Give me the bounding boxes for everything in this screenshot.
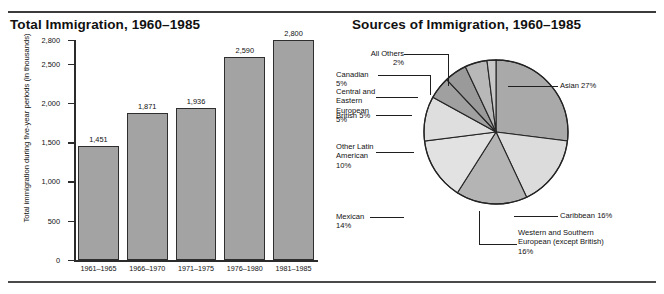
pie-chart-panel: All Others 2% Canadian 5% Central and Ea… bbox=[336, 34, 664, 282]
pie-graphic bbox=[422, 58, 570, 206]
y-tick-label: 2,500 bbox=[42, 59, 61, 68]
bar-value-label: 2,800 bbox=[284, 29, 303, 38]
leader-wseuro-v bbox=[479, 211, 480, 244]
leader-canadian-h bbox=[378, 75, 430, 76]
y-tick-label: 2,800 bbox=[42, 36, 61, 45]
pie-label-wseuro-line1: Western and Southern bbox=[518, 228, 628, 237]
pie-label-caribbean: Caribbean 16% bbox=[560, 211, 624, 220]
leader-wseuro-h bbox=[479, 244, 517, 245]
leader-mexican-h bbox=[370, 217, 404, 218]
leader-all-others-v bbox=[448, 54, 449, 86]
x-axis-line bbox=[74, 260, 318, 262]
pie-chart-title: Sources of Immigration, 1960–1985 bbox=[352, 17, 581, 32]
y-tick: 0 bbox=[68, 260, 74, 261]
x-category-label: 1976–1980 bbox=[227, 264, 263, 273]
leader-central-h bbox=[376, 97, 418, 98]
pie-label-wseuro-line2: European (except British) bbox=[518, 237, 628, 246]
leader-canadian-v bbox=[430, 75, 431, 95]
y-tick: 2,500 bbox=[68, 64, 74, 65]
y-tick: 2,800 bbox=[68, 40, 74, 41]
x-category-label: 1981–1985 bbox=[276, 264, 312, 273]
y-tick: 1,500 bbox=[68, 142, 74, 143]
pie-slice-Asian bbox=[496, 60, 568, 141]
leader-all-others-h bbox=[404, 54, 448, 55]
bar-chart-y-axis-label: Total immigration during five-year perio… bbox=[22, 43, 31, 223]
pie-label-western-southern-european: Western and Southern European (except Br… bbox=[518, 228, 628, 256]
bar-1966–1970 bbox=[127, 113, 168, 260]
y-tick-label: 1,500 bbox=[42, 138, 61, 147]
y-tick-label: 0 bbox=[56, 256, 60, 265]
leader-british-h bbox=[376, 115, 412, 116]
y-tick: 1,000 bbox=[68, 181, 74, 182]
bar-chart-title: Total Immigration, 1960–1985 bbox=[10, 17, 200, 32]
leader-other-latin-h bbox=[376, 152, 414, 153]
top-divider-rule bbox=[8, 11, 656, 13]
pie-svg bbox=[422, 58, 570, 206]
bar-1981–1985 bbox=[273, 40, 314, 260]
bar-value-label: 2,590 bbox=[236, 46, 255, 55]
bar-1976–1980 bbox=[224, 57, 265, 261]
y-tick-label: 500 bbox=[48, 216, 60, 225]
leader-asian-h bbox=[508, 86, 558, 87]
bar-value-label: 1,451 bbox=[89, 135, 108, 144]
pie-label-other-latin-line2: American bbox=[336, 151, 378, 160]
pie-label-other-latin-line3: 10% bbox=[336, 161, 378, 170]
leader-caribbean-h bbox=[514, 216, 558, 217]
pie-label-asian: Asian 27% bbox=[560, 81, 620, 90]
bar-1971–1975 bbox=[176, 108, 217, 260]
y-tick: 500 bbox=[68, 221, 74, 222]
bar-chart-panel: Total immigration during five-year perio… bbox=[0, 34, 340, 282]
bar-value-label: 1,936 bbox=[187, 97, 206, 106]
x-category-label: 1971–1975 bbox=[178, 264, 214, 273]
x-category-label: 1966–1970 bbox=[129, 264, 165, 273]
y-tick-label: 2,000 bbox=[42, 98, 61, 107]
pie-label-central-line1: Central and bbox=[336, 87, 378, 96]
pie-label-wseuro-line3: 16% bbox=[518, 247, 628, 256]
y-tick: 2,000 bbox=[68, 103, 74, 104]
x-category-label: 1961–1965 bbox=[80, 264, 116, 273]
pie-label-other-latin-line1: Other Latin bbox=[336, 142, 378, 151]
y-axis-line bbox=[74, 40, 76, 260]
bar-value-label: 1,871 bbox=[138, 102, 157, 111]
y-tick-label: 1,000 bbox=[42, 177, 61, 186]
pie-label-canadian: Canadian 5% bbox=[336, 70, 378, 89]
pie-label-mexican: Mexican 14% bbox=[336, 212, 372, 231]
bar-1961–1965 bbox=[78, 146, 119, 260]
pie-label-all-others: All Others 2% bbox=[362, 49, 404, 68]
pie-label-british: British 5% bbox=[336, 111, 378, 120]
pie-label-other-latin-american: Other Latin American 10% bbox=[336, 142, 378, 170]
bar-chart-plot-area: 05001,0001,5002,0002,5002,800 1,4511,871… bbox=[74, 40, 318, 260]
